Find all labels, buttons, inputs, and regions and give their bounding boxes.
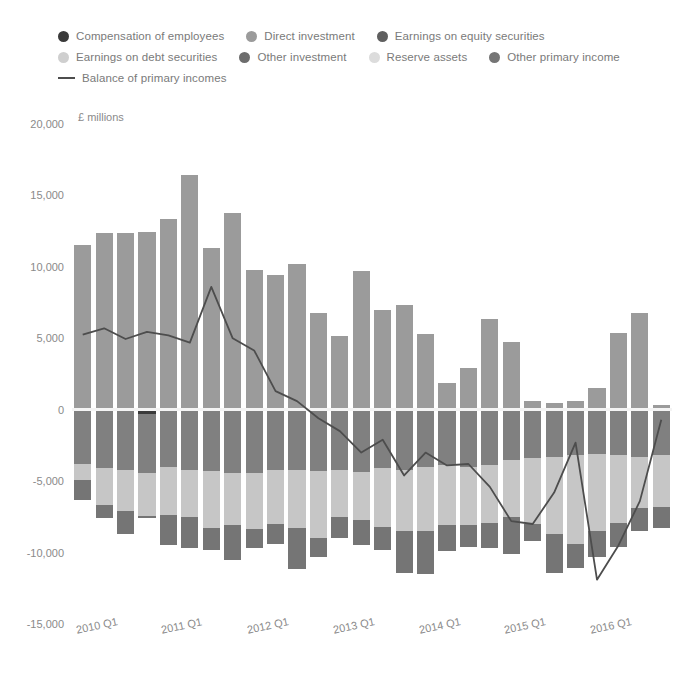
legend-dot-marker: [369, 52, 380, 63]
balance-of-primary-incomes-line: [83, 287, 662, 580]
legend-item[interactable]: Other primary income: [489, 51, 620, 63]
legend-dot-marker: [489, 52, 500, 63]
legend-item[interactable]: Balance of primary incomes: [58, 72, 227, 84]
legend-label: Direct investment: [264, 30, 355, 42]
y-axis-tick-label: -15,000: [27, 618, 64, 630]
legend-label: Compensation of employees: [76, 30, 224, 42]
y-axis-tick-label: -5,000: [33, 475, 64, 487]
x-axis-labels: 2010 Q12011 Q12012 Q12013 Q12014 Q12015 …: [72, 624, 672, 684]
legend-item[interactable]: Direct investment: [246, 30, 355, 42]
legend-dot-marker: [246, 31, 257, 42]
chart-page: Compensation of employeesDirect investme…: [0, 0, 683, 689]
legend-dot-marker: [239, 52, 250, 63]
y-axis-tick-label: 5,000: [36, 332, 64, 344]
y-axis-unit-label: £ millions: [78, 111, 124, 123]
legend-label: Earnings on equity securities: [395, 30, 545, 42]
legend-item[interactable]: Other investment: [239, 51, 346, 63]
legend-label: Other primary income: [507, 51, 620, 63]
legend-dot-marker: [58, 31, 69, 42]
legend-dot-marker: [377, 31, 388, 42]
legend-label: Earnings on debt securities: [76, 51, 217, 63]
legend-item[interactable]: Earnings on debt securities: [58, 51, 217, 63]
legend-dot-marker: [58, 52, 69, 63]
balance-line-layer: [72, 124, 672, 624]
legend-line-marker: [58, 77, 75, 79]
legend-item[interactable]: Earnings on equity securities: [377, 30, 545, 42]
legend-row: Balance of primary incomes: [58, 72, 670, 84]
legend-row: Earnings on debt securitiesOther investm…: [58, 51, 670, 63]
y-axis-tick-label: 0: [58, 404, 64, 416]
legend-item[interactable]: Compensation of employees: [58, 30, 224, 42]
y-axis-tick-label: 20,000: [30, 118, 64, 130]
y-axis-tick-label: -10,000: [27, 547, 64, 559]
plot-area: 20,00015,00010,0005,0000-5,000-10,000-15…: [72, 124, 672, 624]
legend-label: Balance of primary incomes: [82, 72, 227, 84]
chart-legend: Compensation of employeesDirect investme…: [58, 30, 670, 93]
legend-label: Other investment: [257, 51, 346, 63]
y-axis-tick-label: 10,000: [30, 261, 64, 273]
y-axis-tick-label: 15,000: [30, 189, 64, 201]
legend-item[interactable]: Reserve assets: [369, 51, 468, 63]
legend-label: Reserve assets: [387, 51, 468, 63]
legend-row: Compensation of employeesDirect investme…: [58, 30, 670, 42]
